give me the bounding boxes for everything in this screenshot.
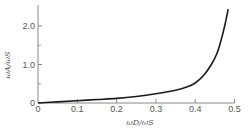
x-axis-label: ωD/ωS [126,118,154,127]
y-tick-label: 1.0 [22,60,35,70]
y-tick-label: 2.0 [22,21,35,31]
line-chart: 00.10.20.30.40.501.02.0 ωD/ωS ωA/ωS [0,0,249,135]
x-tick-label: 0.2 [110,104,123,114]
data-curve [38,9,228,103]
y-axis-label: ωA/ωS [3,51,12,79]
tick-labels: 00.10.20.30.40.501.02.0 [22,21,240,114]
x-tick-label: 0.4 [189,104,202,114]
axes [38,5,235,103]
x-tick-label: 0.1 [71,104,84,114]
ticks [38,26,235,103]
x-tick-label: 0.5 [228,104,241,114]
x-tick-label: 0 [35,104,40,114]
y-tick-label: 0 [30,98,35,108]
x-tick-label: 0.3 [150,104,163,114]
